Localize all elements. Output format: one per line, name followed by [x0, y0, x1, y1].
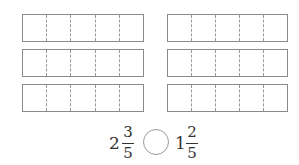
bar-segment [96, 50, 120, 76]
fraction-bar-right-2 [167, 49, 288, 77]
right-numerator: 2 [186, 125, 198, 141]
bar-segment [47, 15, 71, 41]
fraction-bar-right-1 [167, 14, 288, 42]
bar-segment [192, 85, 216, 111]
comparison-expression: 2 3 5 1 2 5 [0, 122, 299, 162]
left-numerator: 3 [122, 125, 134, 141]
bar-segment [96, 85, 120, 111]
bar-segment [23, 50, 47, 76]
fraction-bar-left-2 [22, 49, 144, 77]
bar-segment [71, 15, 95, 41]
bar-segment [23, 85, 47, 111]
bar-segment [96, 15, 120, 41]
bar-segment [23, 15, 47, 41]
bar-segment [168, 15, 192, 41]
right-fraction: 2 5 [186, 125, 198, 161]
bar-segment [168, 50, 192, 76]
bar-segment [71, 50, 95, 76]
left-whole-number: 2 [109, 135, 120, 152]
bar-segment [216, 15, 240, 41]
bar-segment [264, 15, 287, 41]
bar-segment [240, 85, 264, 111]
fraction-bar-left-1 [22, 14, 144, 42]
comparison-circle[interactable] [143, 129, 169, 155]
bar-segment [192, 15, 216, 41]
bar-segment [120, 50, 143, 76]
bar-segment [264, 85, 287, 111]
bar-segment [192, 50, 216, 76]
bar-segment [120, 15, 143, 41]
bar-segment [47, 50, 71, 76]
bar-segment [240, 50, 264, 76]
bar-segment [71, 85, 95, 111]
bar-segment [47, 85, 71, 111]
fraction-bar-left-3 [22, 84, 144, 112]
bar-segment [264, 50, 287, 76]
bar-segment [168, 85, 192, 111]
fraction-bar-right-3 [167, 84, 288, 112]
left-fraction: 3 5 [122, 125, 134, 161]
right-whole-number: 1 [175, 135, 186, 152]
left-denominator: 5 [122, 146, 134, 161]
bar-segment [216, 50, 240, 76]
bar-segment [120, 85, 143, 111]
bar-segment [216, 85, 240, 111]
bar-segment [240, 15, 264, 41]
right-denominator: 5 [186, 146, 198, 161]
